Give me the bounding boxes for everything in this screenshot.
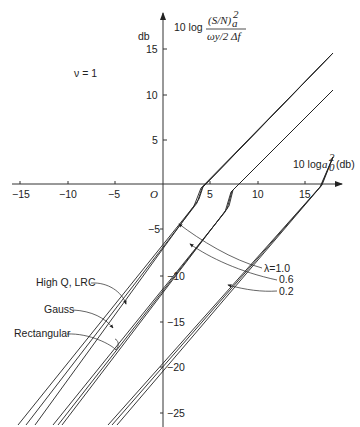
svg-text:10: 10 — [146, 89, 158, 101]
svg-text:Rectangular: Rectangular — [14, 327, 71, 339]
svg-text:ωy/2 Δf: ωy/2 Δf — [207, 30, 242, 42]
svg-text:2: 2 — [329, 151, 335, 163]
y-tick-labels: 15 10 5 −5 −10 −15 −20 −25 — [146, 43, 185, 419]
series-lambda-0.6 — [53, 90, 333, 425]
parameter-label: ν = 1 — [74, 67, 97, 79]
svg-text:10 log: 10 log — [293, 158, 322, 170]
legend-high-q: High Q, LRC — [36, 276, 126, 304]
svg-text:(S/N): (S/N) — [208, 14, 232, 27]
svg-text:a: a — [322, 158, 328, 170]
svg-text:−10: −10 — [59, 188, 77, 200]
svg-text:10 log: 10 log — [174, 21, 203, 33]
legend-lambda-0.2: 0.2 — [228, 285, 294, 297]
svg-text:(db): (db) — [336, 158, 355, 170]
y-unit-label: db — [138, 30, 150, 42]
svg-text:0.6: 0.6 — [279, 273, 294, 285]
svg-text:15: 15 — [146, 43, 158, 55]
svg-text:5: 5 — [152, 134, 158, 146]
svg-text:−5: −5 — [148, 223, 160, 235]
svg-text:10: 10 — [252, 188, 264, 200]
x-axis — [12, 181, 342, 184]
svg-text:2: 2 — [233, 8, 239, 20]
svg-text:0.2: 0.2 — [279, 285, 294, 297]
y-axis-title: 10 log (S/N) a 2 ωy/2 Δf — [174, 8, 246, 42]
svg-text:5: 5 — [207, 188, 213, 200]
x-axis-title: 10 log a 0 2 (db) — [293, 151, 355, 173]
svg-text:−15: −15 — [167, 316, 185, 328]
x-tick-labels: −15 −10 −5 5 10 15 O — [12, 188, 311, 200]
svg-text:−15: −15 — [12, 188, 30, 200]
svg-text:−5: −5 — [108, 188, 120, 200]
svg-text:High Q, LRC: High Q, LRC — [36, 276, 96, 288]
legend-gauss: Gauss — [44, 303, 113, 328]
legend-rectangular: Rectangular — [14, 327, 118, 350]
svg-text:−25: −25 — [167, 407, 185, 419]
chart: −15 −10 −5 5 10 15 O 15 10 5 −5 −10 −15 … — [0, 0, 360, 427]
svg-text:O: O — [150, 188, 158, 200]
svg-text:Gauss: Gauss — [44, 303, 74, 315]
svg-text:15: 15 — [299, 188, 311, 200]
